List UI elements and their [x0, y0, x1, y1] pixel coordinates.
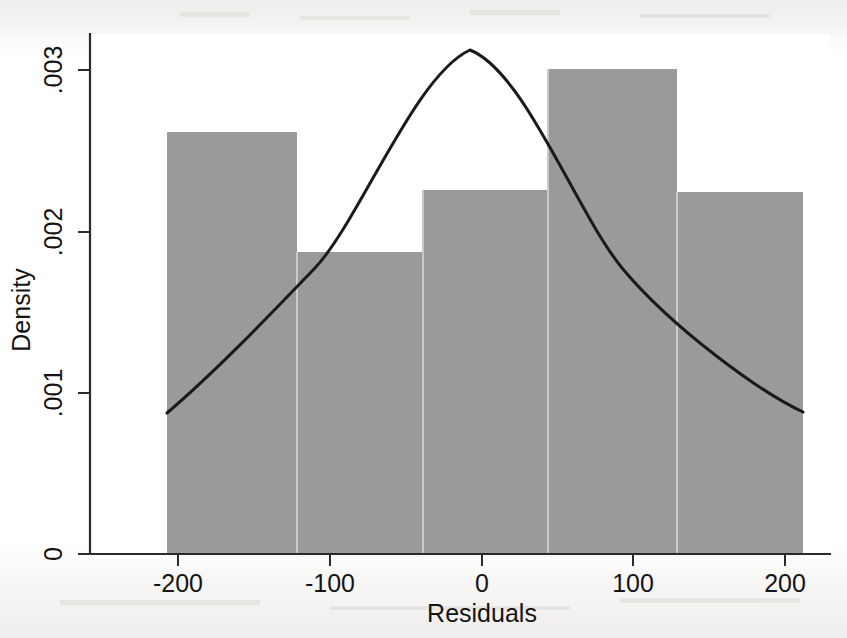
histogram-bar: [423, 190, 548, 554]
histogram-bar: [548, 69, 677, 554]
y-tick-label: .001: [39, 369, 67, 418]
y-axis-tick-labels: 0 .001 .002 .003: [39, 46, 67, 561]
y-tick-label: .002: [39, 208, 67, 257]
x-tick-label: 0: [475, 569, 489, 597]
histogram-bar: [167, 132, 297, 554]
histogram-bar: [297, 252, 423, 554]
x-tick-label: -200: [153, 569, 203, 597]
plot-canvas: 0 .001 .002 .003 Density -200 -100 0 100…: [0, 0, 847, 638]
y-tick-label: 0: [39, 547, 67, 561]
x-tick-label: 100: [612, 569, 654, 597]
x-axis-tick-labels: -200 -100 0 100 200: [153, 569, 806, 597]
x-axis-title: Residuals: [427, 599, 537, 627]
x-axis-ticks: [178, 554, 785, 566]
x-tick-label: 200: [764, 569, 806, 597]
y-axis-title: Density: [7, 268, 35, 352]
y-tick-label: .003: [39, 46, 67, 95]
histogram-figure: 0 .001 .002 .003 Density -200 -100 0 100…: [0, 0, 847, 638]
x-tick-label: -100: [305, 569, 355, 597]
y-axis-ticks: [78, 70, 90, 554]
